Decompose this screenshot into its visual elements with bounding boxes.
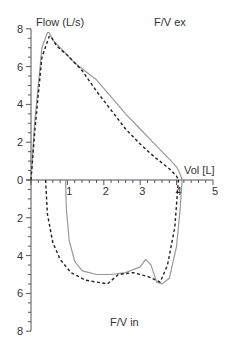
y-tick-label: 2 bbox=[17, 212, 23, 224]
y-tick-label: 8 bbox=[17, 23, 23, 35]
y-tick-label: 6 bbox=[17, 61, 23, 73]
x-tick-label: 1 bbox=[66, 185, 72, 197]
title-expiratory: F/V ex bbox=[154, 16, 186, 28]
y-tick-label: 0 bbox=[17, 174, 23, 186]
y-tick-label: 6 bbox=[17, 287, 23, 299]
x-axis-label: Vol [L] bbox=[184, 164, 215, 176]
curve-inspiratory-solid bbox=[66, 180, 183, 284]
x-tick-label: 5 bbox=[212, 185, 218, 197]
title-inspiratory: F/V in bbox=[110, 316, 139, 328]
axes: 02468246812345 bbox=[17, 23, 218, 337]
y-tick-label: 4 bbox=[17, 98, 23, 110]
curve-expiratory-solid bbox=[31, 33, 182, 180]
y-tick-label: 2 bbox=[17, 136, 23, 148]
y-tick-label: 8 bbox=[17, 325, 23, 337]
x-tick-label: 2 bbox=[103, 185, 109, 197]
y-axis-label: Flow (L/s) bbox=[36, 16, 84, 28]
x-tick-label: 3 bbox=[139, 185, 145, 197]
y-tick-label: 4 bbox=[17, 250, 23, 262]
curve-expiratory-dashed bbox=[31, 36, 178, 180]
curves bbox=[31, 33, 182, 284]
flow-volume-chart: 02468246812345 Flow (L/s) F/V ex Vol [L]… bbox=[0, 0, 232, 353]
